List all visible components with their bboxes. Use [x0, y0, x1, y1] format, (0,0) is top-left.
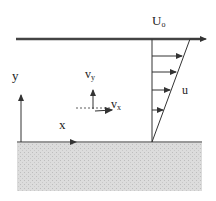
y-axis-label: y [12, 68, 19, 83]
u-label: u [182, 83, 188, 97]
vx-label: vx [111, 97, 121, 112]
diagram-canvas: Uo u y x vy vx [0, 0, 216, 201]
ground-region [17, 143, 202, 191]
x-axis-label: x [59, 117, 66, 132]
vy-label: vy [85, 67, 95, 82]
vx-arrow [95, 110, 112, 111]
plate-velocity-label: Uo [152, 13, 165, 29]
